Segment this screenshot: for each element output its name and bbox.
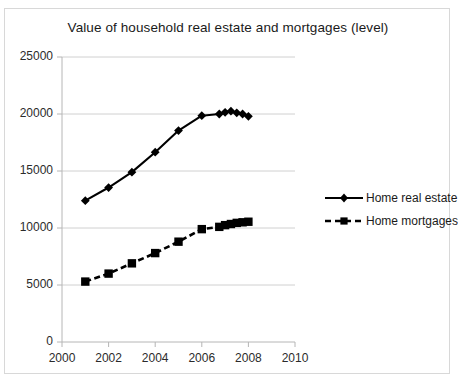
data-point-marker [151,249,159,257]
data-point-marker [81,196,90,205]
data-point-marker [198,225,206,233]
data-point-marker [81,277,89,285]
legend-key-solid-diamond-icon [324,191,364,205]
data-point-marker [244,218,252,226]
x-axis-tick-label: 2010 [265,351,325,365]
data-point-marker [104,269,112,277]
chart-legend: Home real estate Home mortgages [324,186,452,232]
legend-key-dashed-square-icon [324,214,364,228]
y-axis-tick-label: 5000 [26,277,53,291]
y-axis-tick-label: 20000 [20,106,53,120]
legend-label-home-mortgages: Home mortgages [366,214,458,228]
gridlines [62,57,295,285]
y-axis-tick-label: 0 [46,334,53,348]
y-axis-tick-label: 25000 [20,49,53,63]
data-point-marker [174,237,182,245]
y-axis-tick-label: 10000 [20,220,53,234]
legend-item-home-mortgages: Home mortgages [324,209,452,232]
legend-item-home-real-estate: Home real estate [324,186,452,209]
legend-label-home-real-estate: Home real estate [366,191,457,205]
data-series-layer [81,107,253,286]
axis-lines [57,57,295,347]
y-axis-tick-label: 15000 [20,163,53,177]
data-point-marker [128,259,136,267]
